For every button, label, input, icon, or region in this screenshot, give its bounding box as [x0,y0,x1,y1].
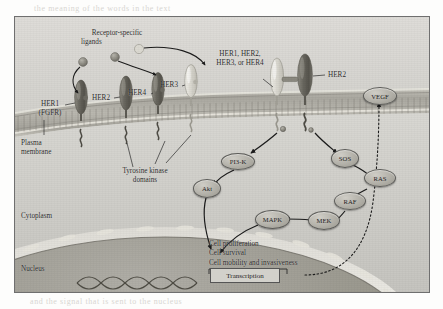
plasma-membrane-line1: Plasma [21,139,42,147]
pi3k-label: PI3-K [230,158,247,165]
dimer-line1: HER1, HER2, [219,50,260,58]
cytoplasm-text: Cytoplasm [21,212,52,220]
akt-label: Akt [202,185,212,192]
sos-label: SOS [339,155,351,162]
dimer-line2: HER3, or HER4 [216,59,263,67]
label-plasma-membrane: Plasma membrane [21,139,51,156]
label-cytoplasm: Cytoplasm [21,212,52,221]
tyrosine-line2: domains [133,176,157,184]
outcome-item: Cell survival [209,249,297,258]
label-her2-right: HER2 [328,71,346,80]
node-pi3k[interactable]: PI3-K [221,153,255,170]
transcription-label: Transcription [226,272,263,280]
label-her2-left: HER2 [92,94,110,103]
outcome-item: Cell proliferation [209,240,297,249]
node-mapk[interactable]: MAPK [255,210,290,229]
her1-line2: (FGFR) [39,109,62,117]
node-mek[interactable]: MEK [308,211,340,230]
her3-text: HER3 [160,81,178,89]
node-raf[interactable]: RAF [334,192,366,210]
her4-text: HER4 [128,89,146,97]
figure-page: the meaning of the words in the text and… [0,0,443,309]
node-vegf[interactable]: VEGF [363,87,397,105]
outcome-item: Cell mobility and invasiveness [209,259,297,268]
label-nucleus: Nucleus [21,265,45,274]
ligands-line1: Receptor-specific [92,29,143,37]
her2-right-text: HER2 [328,71,346,79]
label-her4: HER4 [128,89,146,98]
transcription-box[interactable]: Transcription [210,268,280,283]
plasma-membrane-line2: membrane [21,148,51,156]
her1-line1: HER1 [41,100,59,108]
mapk-label: MAPK [263,216,282,223]
label-her1: HER1 (FGFR) [33,100,67,117]
label-her3: HER3 [160,81,178,90]
label-dimer-combinations: HER1, HER2, HER3, or HER4 [201,50,279,67]
mek-label: MEK [317,217,332,224]
page-bleed-top: the meaning of the words in the text [34,4,171,13]
raf-label: RAF [343,198,356,205]
her2-left-text: HER2 [92,94,110,102]
pathway-figure: Receptor-specific ligands HER1 (FGFR) HE… [14,16,430,293]
label-receptor-specific-ligands: Receptor-specific ligands [77,29,157,46]
ras-label: RAS [373,175,386,182]
label-tyrosine-kinase-domains: Tyrosine kinase domains [107,167,183,184]
node-ras[interactable]: RAS [364,169,396,187]
ligands-line2: ligands [77,38,161,47]
vegf-label: VEGF [371,93,389,100]
node-akt[interactable]: Akt [193,179,221,198]
nucleus-text: Nucleus [21,265,45,273]
outcomes-list: Cell proliferation Cell survival Cell mo… [209,240,297,268]
node-sos[interactable]: SOS [331,149,359,168]
tyrosine-line1: Tyrosine kinase [122,167,167,175]
page-bleed-bottom: and the signal that is sent to the nucle… [30,297,182,306]
